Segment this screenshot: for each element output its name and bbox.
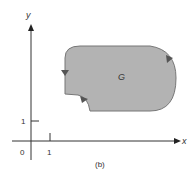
y-tick-label: 1 xyxy=(21,117,26,126)
x-tick-label: 1 xyxy=(47,148,52,157)
diagram: y x 0 1 1 G (b) xyxy=(0,0,196,184)
x-axis-label: x xyxy=(181,136,187,146)
x-axis-arrow-icon xyxy=(174,138,181,144)
y-axis-arrow-icon xyxy=(28,24,34,31)
caption: (b) xyxy=(95,160,105,169)
origin-label: 0 xyxy=(20,148,25,157)
y-axis-label: y xyxy=(25,10,31,20)
region-label: G xyxy=(118,72,125,82)
